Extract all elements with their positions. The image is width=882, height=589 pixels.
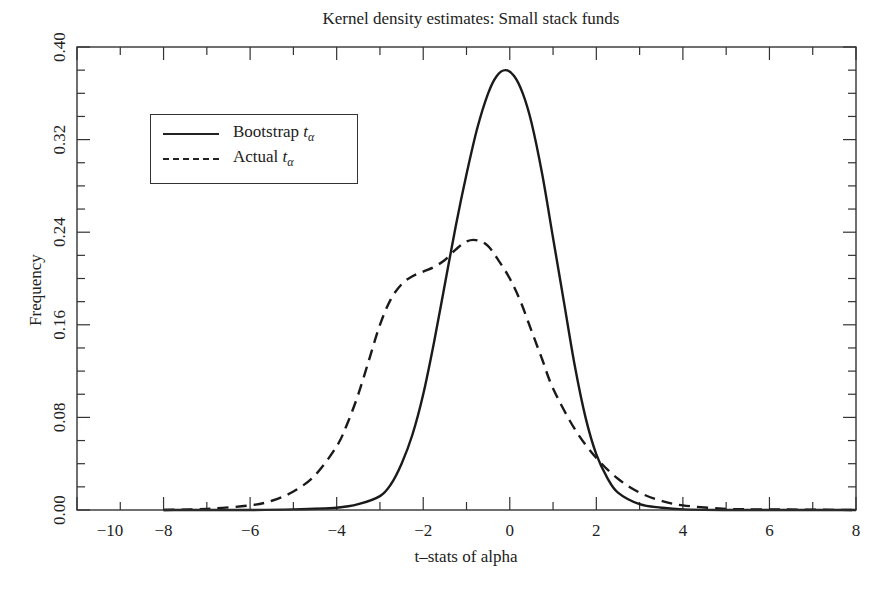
chart-title: Kernel density estimates: Small stack fu…: [0, 9, 882, 29]
svg-text:0.32: 0.32: [50, 125, 69, 155]
svg-text:−6: −6: [241, 521, 259, 540]
svg-text:0.16: 0.16: [50, 310, 69, 340]
legend-label: Bootstrap tα: [233, 122, 314, 145]
svg-text:2: 2: [592, 521, 601, 540]
svg-text:0: 0: [506, 521, 515, 540]
svg-text:6: 6: [765, 521, 774, 540]
svg-text:−4: −4: [328, 521, 347, 540]
y-axis-label: Frequency: [26, 254, 46, 326]
legend: Bootstrap tα Actual tα: [150, 114, 358, 184]
legend-item-actual: Actual tα: [163, 148, 294, 170]
svg-text:0.00: 0.00: [50, 495, 69, 525]
svg-text:0.24: 0.24: [50, 217, 69, 247]
svg-text:−2: −2: [414, 521, 432, 540]
svg-text:8: 8: [852, 521, 861, 540]
legend-label: Actual tα: [233, 147, 294, 170]
svg-text:0.08: 0.08: [50, 403, 69, 433]
solid-line-swatch-icon: [163, 133, 219, 135]
dashed-line-swatch-icon: [163, 158, 219, 160]
x-axis-label: t–stats of alpha: [0, 547, 882, 567]
tick-labels: −10−8−6−4−2024680.000.080.160.240.320.40: [50, 32, 860, 540]
svg-text:−10: −10: [97, 521, 124, 540]
svg-text:0.40: 0.40: [50, 32, 69, 62]
legend-item-bootstrap: Bootstrap tα: [163, 123, 314, 145]
chart-plot-area: −10−8−6−4−2024680.000.080.160.240.320.40: [0, 0, 882, 589]
svg-text:−8: −8: [155, 521, 173, 540]
svg-text:4: 4: [679, 521, 688, 540]
actual-density-curve: [164, 240, 856, 510]
